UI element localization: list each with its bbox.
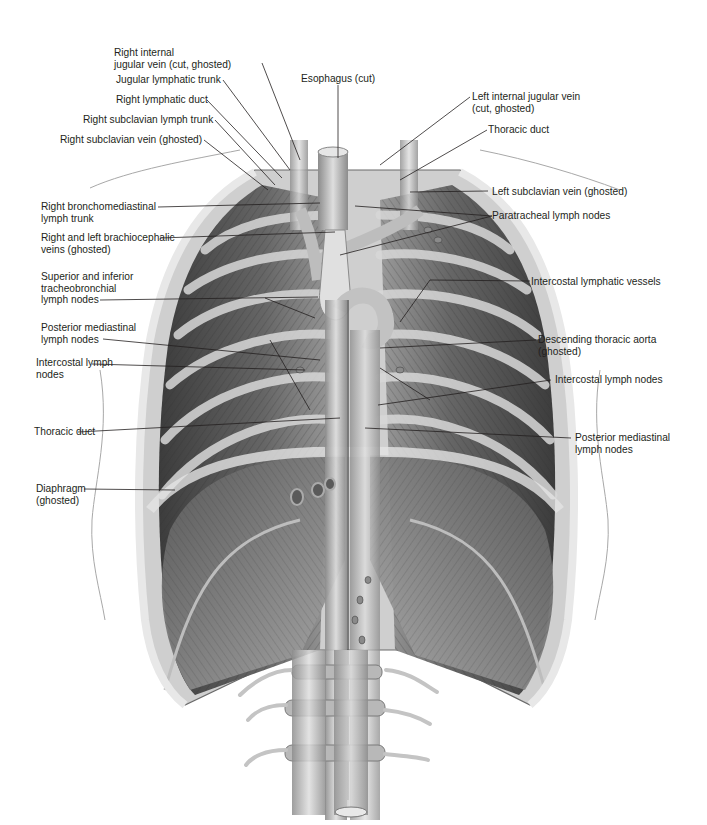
label-brachiocephalic-veins: Right and left brachiocephalic veins (gh…: [41, 232, 175, 255]
label-left-internal-jugular-vein: Left internal jugular vein (cut, ghosted…: [472, 91, 580, 114]
anatomy-figure: Right internal jugular vein (cut, ghoste…: [0, 0, 707, 825]
label-esophagus: Esophagus (cut): [301, 73, 375, 85]
label-intercostal-lymphatic-vessels: Intercostal lymphatic vessels: [531, 276, 661, 288]
label-paratracheal-lymph-nodes: Paratracheal lymph nodes: [492, 210, 610, 222]
label-descending-thoracic-aorta: Descending thoracic aorta (ghosted): [538, 334, 656, 357]
label-posterior-mediastinal-lymph-nodes-left: Posterior mediastinal lymph nodes: [41, 322, 136, 345]
label-thoracic-duct-left: Thoracic duct: [34, 426, 95, 438]
label-thoracic-duct-right: Thoracic duct: [488, 124, 549, 136]
label-jugular-lymphatic-trunk: Jugular lymphatic trunk: [116, 74, 221, 86]
label-right-internal-jugular-vein: Right internal jugular vein (cut, ghoste…: [114, 47, 231, 70]
label-right-bronchomediastinal-lymph-trunk: Right bronchomediastinal lymph trunk: [41, 201, 156, 224]
label-intercostal-lymph-nodes-left: Intercostal lymph nodes: [36, 357, 113, 380]
label-tracheobronchial-lymph-nodes: Superior and inferior tracheobronchial l…: [41, 271, 133, 306]
label-diaphragm: Diaphragm (ghosted): [36, 483, 86, 506]
label-right-lymphatic-duct: Right lymphatic duct: [116, 94, 208, 106]
label-left-subclavian-vein: Left subclavian vein (ghosted): [492, 186, 627, 198]
label-right-subclavian-lymph-trunk: Right subclavian lymph trunk: [83, 114, 213, 126]
label-posterior-mediastinal-lymph-nodes-right: Posterior mediastinal lymph nodes: [575, 432, 670, 455]
label-right-subclavian-vein: Right subclavian vein (ghosted): [60, 134, 202, 146]
label-intercostal-lymph-nodes-right: Intercostal lymph nodes: [555, 374, 663, 386]
